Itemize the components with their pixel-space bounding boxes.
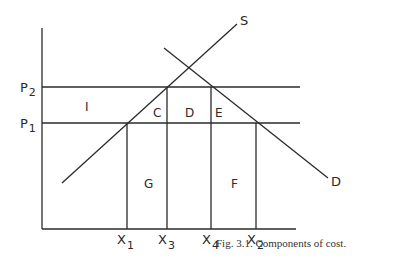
- region-f-label: F: [231, 177, 238, 191]
- region-e-label: E: [215, 106, 223, 120]
- x3-label: X3: [158, 232, 175, 252]
- supply-label: S: [240, 13, 248, 28]
- p1-label: P1: [20, 116, 36, 135]
- region-c-label: C: [153, 106, 161, 120]
- p2-label: P2: [20, 80, 36, 99]
- x1-label: X1: [117, 232, 134, 252]
- figure-caption: Fig. 3.1. Components of cost.: [216, 237, 346, 249]
- region-g-label: G: [144, 177, 153, 191]
- demand-label: D: [331, 174, 341, 189]
- cost-components-diagram: S D P2 P1 X1 X3 X4 X2 I C D E G F Fig. 3…: [0, 0, 393, 274]
- region-i-label: I: [85, 100, 89, 114]
- region-d-label: D: [185, 106, 194, 120]
